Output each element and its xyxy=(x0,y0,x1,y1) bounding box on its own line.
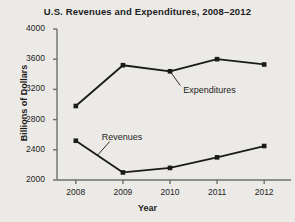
series-line-expenditures xyxy=(76,59,264,106)
data-point-marker xyxy=(74,104,79,109)
data-point-marker xyxy=(168,166,173,171)
y-tick-label: 3600 xyxy=(9,53,45,63)
x-tick-label: 2009 xyxy=(103,187,143,197)
chart-figure: U.S. Revenues and Expenditures, 2008–201… xyxy=(0,0,295,222)
data-point-marker xyxy=(262,62,267,67)
annotation-leader-line xyxy=(97,142,110,156)
x-axis-label: Year xyxy=(0,203,295,213)
data-point-marker xyxy=(74,138,79,143)
data-point-marker xyxy=(121,63,126,68)
y-tick-label: 2400 xyxy=(9,144,45,154)
annotation-leader-line xyxy=(170,71,180,85)
series-label-expenditures: Expenditures xyxy=(183,85,236,95)
y-tick-label: 4000 xyxy=(9,23,45,33)
data-point-marker xyxy=(215,155,220,160)
x-tick-label: 2012 xyxy=(244,187,284,197)
data-point-marker xyxy=(262,144,267,149)
series-label-revenues: Revenues xyxy=(102,132,143,142)
y-tick-label: 2000 xyxy=(9,174,45,184)
data-point-marker xyxy=(121,170,126,175)
x-tick-label: 2008 xyxy=(56,187,96,197)
y-tick-label: 3200 xyxy=(9,83,45,93)
x-tick-label: 2010 xyxy=(150,187,190,197)
data-point-marker xyxy=(215,57,220,62)
x-tick-label: 2011 xyxy=(197,187,237,197)
y-tick-label: 2800 xyxy=(9,114,45,124)
